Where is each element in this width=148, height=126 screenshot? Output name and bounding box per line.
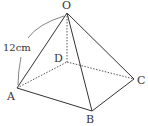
label-C: C [137,74,145,87]
label-A: A [6,90,16,103]
edge-AB [17,88,92,111]
edge-OB [67,13,92,111]
edge-DC-hidden [67,62,134,79]
measure-arc-upper [28,16,64,38]
pyramid-diagram: O A B C D 12cm [0,0,148,126]
pyramid-svg: O A B C D 12cm [0,0,148,126]
label-O: O [62,0,71,12]
edge-AD-hidden [17,62,67,88]
label-D: D [54,52,63,65]
measure-arc-lower [18,57,21,85]
edge-OC [67,13,134,79]
measurement-label: 12cm [3,42,31,53]
label-B: B [86,113,94,126]
edge-BC [92,79,134,111]
